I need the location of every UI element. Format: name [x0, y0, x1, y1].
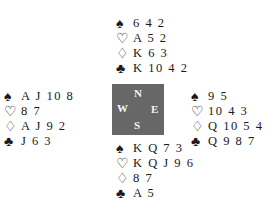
north-spades: ♠6 4 2 [116, 16, 188, 31]
compass-box: N W E S [112, 84, 164, 135]
club-icon: ♣ [116, 186, 133, 201]
east-hearts: ♡10 4 3 [191, 104, 263, 119]
heart-icon: ♡ [191, 104, 208, 119]
west-diamonds: ♢A J 9 2 [4, 119, 74, 134]
west-spades: ♠A J 10 8 [4, 89, 74, 104]
spade-icon: ♠ [116, 141, 133, 156]
club-icon: ♣ [4, 134, 21, 149]
spade-icon: ♠ [4, 89, 21, 104]
compass-east-label: E [151, 103, 158, 115]
heart-icon: ♡ [116, 156, 133, 171]
heart-icon: ♡ [4, 104, 21, 119]
north-hearts: ♡A 5 2 [116, 31, 188, 46]
spade-icon: ♠ [116, 16, 133, 31]
east-diamonds: ♢Q 10 5 4 [191, 119, 263, 134]
diamond-icon: ♢ [4, 119, 21, 134]
west-hearts: ♡8 7 [4, 104, 74, 119]
south-spades: ♠K Q 7 3 [116, 141, 194, 156]
compass-south-label: S [134, 119, 140, 131]
heart-icon: ♡ [116, 31, 133, 46]
north-clubs: ♣K 10 4 2 [116, 61, 188, 76]
south-diamonds: ♢8 7 [116, 171, 194, 186]
south-clubs: ♣A 5 [116, 186, 194, 201]
spade-icon: ♠ [191, 89, 208, 104]
north-hand: ♠6 4 2 ♡A 5 2 ♢K 6 3 ♣K 10 4 2 [116, 16, 188, 76]
diamond-icon: ♢ [191, 119, 208, 134]
east-spades: ♠9 5 [191, 89, 263, 104]
north-diamonds: ♢K 6 3 [116, 46, 188, 61]
club-icon: ♣ [116, 61, 133, 76]
south-hearts: ♡K Q J 9 6 [116, 156, 194, 171]
diamond-icon: ♢ [116, 46, 133, 61]
diamond-icon: ♢ [116, 171, 133, 186]
east-hand: ♠9 5 ♡10 4 3 ♢Q 10 5 4 ♣Q 9 8 7 [191, 89, 263, 149]
south-hand: ♠K Q 7 3 ♡K Q J 9 6 ♢8 7 ♣A 5 [116, 141, 194, 201]
compass-west-label: W [117, 102, 128, 114]
west-hand: ♠A J 10 8 ♡8 7 ♢A J 9 2 ♣J 6 3 [4, 89, 74, 149]
west-clubs: ♣J 6 3 [4, 134, 74, 149]
east-clubs: ♣Q 9 8 7 [191, 134, 263, 149]
compass-north-label: N [134, 87, 142, 99]
